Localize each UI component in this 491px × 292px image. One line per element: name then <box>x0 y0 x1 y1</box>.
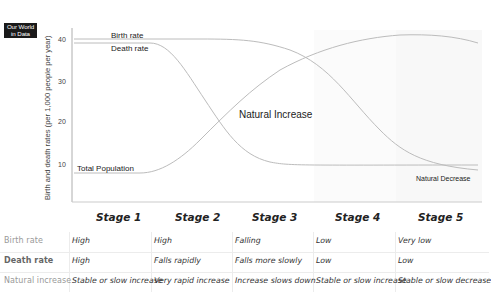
table-row-birth-rate: Birth rate High High Falling Low Very lo… <box>0 232 489 253</box>
y-tick-40: 40 <box>58 36 66 43</box>
demographic-transition-chart: 40 30 20 10 Birth and death rates (per 1… <box>0 0 489 232</box>
row-header: Natural increase <box>4 276 71 285</box>
table-cell: High <box>154 236 172 245</box>
y-axis-title: Birth and death rates (per 1,000 people … <box>43 35 52 200</box>
stage-1-label: Stage 1 <box>96 211 141 223</box>
table-cell: Stable or slow decrease <box>398 276 491 285</box>
table-cell: Increase slows down <box>235 276 316 285</box>
table-cell: Falls more slowly <box>235 256 302 265</box>
stage-4-label: Stage 4 <box>335 211 380 223</box>
table-cell: Stable or slow increase <box>72 276 163 285</box>
natural-increase-label: Natural Increase <box>239 109 313 120</box>
table-cell: High <box>72 256 90 265</box>
table-cell: High <box>72 236 90 245</box>
row-header: Birth rate <box>4 236 43 245</box>
table-cell: Falls rapidly <box>154 256 201 265</box>
table-cell: Falling <box>235 236 261 245</box>
stage-2-label: Stage 2 <box>175 211 220 223</box>
table-cell: Low <box>398 256 414 265</box>
y-tick-30: 30 <box>58 78 66 85</box>
stage-3-label: Stage 3 <box>252 211 297 223</box>
y-tick-20: 20 <box>58 118 66 125</box>
death-rate-label: Death rate <box>111 44 149 53</box>
table-cell: Low <box>316 236 332 245</box>
stage-5-label: Stage 5 <box>418 211 463 223</box>
row-header: Death rate <box>4 256 53 265</box>
table-cell: Stable or slow increase <box>316 276 407 285</box>
table-row-death-rate: Death rate High Falls rapidly Falls more… <box>0 252 489 273</box>
total-population-label: Total Population <box>77 164 134 173</box>
birth-rate-label: Birth rate <box>111 31 144 40</box>
table-cell: Very rapid increase <box>154 276 230 285</box>
table-cell: Very low <box>398 236 431 245</box>
table-row-natural-increase: Natural increase Stable or slow increase… <box>0 272 489 292</box>
natural-decrease-label: Natural Decrease <box>416 175 471 182</box>
table-cell: Low <box>316 256 332 265</box>
y-tick-10: 10 <box>58 161 66 168</box>
